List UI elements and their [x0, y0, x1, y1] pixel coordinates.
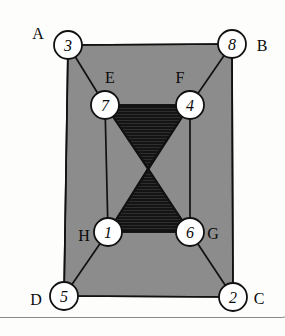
diagram-page: 38741652 ABCDEFGH [0, 0, 285, 336]
node-label-6: 6 [186, 224, 194, 241]
node-label-8: 8 [228, 36, 236, 53]
graph-node-7[interactable]: 7 [91, 91, 119, 119]
graph-node-3[interactable]: 3 [54, 31, 82, 59]
node-label-4: 4 [186, 97, 194, 114]
graph-edge-8-2 [232, 44, 233, 297]
node-label-7: 7 [101, 97, 110, 114]
corner-label-A: A [32, 26, 44, 42]
node-label-1: 1 [104, 224, 112, 241]
corner-label-E: E [105, 70, 115, 86]
graph-node-5[interactable]: 5 [50, 282, 78, 310]
graph-edge-3-8 [68, 44, 232, 45]
graph-node-6[interactable]: 6 [176, 218, 204, 246]
graph-node-8[interactable]: 8 [218, 30, 246, 58]
node-label-3: 3 [63, 37, 72, 54]
node-label-2: 2 [229, 289, 237, 306]
corner-label-F: F [176, 70, 185, 86]
graph-edge-5-2 [64, 296, 233, 297]
corner-label-B: B [257, 38, 268, 54]
corner-label-H: H [78, 228, 90, 244]
graph-node-2[interactable]: 2 [219, 283, 247, 311]
graph-figure: 38741652 [0, 0, 285, 336]
corner-label-C: C [254, 291, 265, 307]
graph-node-1[interactable]: 1 [94, 218, 122, 246]
node-label-5: 5 [60, 288, 68, 305]
corner-label-G: G [207, 226, 219, 242]
corner-label-D: D [30, 292, 42, 308]
graph-node-4[interactable]: 4 [176, 91, 204, 119]
